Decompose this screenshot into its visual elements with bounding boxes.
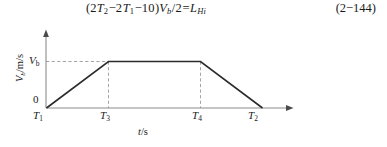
x-tick-label-t4: T4 — [192, 110, 202, 123]
x-tick-label-t1: T1 — [33, 110, 43, 123]
y-axis-title: Vb/m/s — [15, 40, 27, 96]
x-axis-arrowhead — [286, 105, 294, 111]
x-tick-label-t3: T3 — [100, 110, 110, 123]
x-axis-title: t/s — [138, 127, 148, 138]
y-tick-label-zero: 0 — [33, 94, 39, 105]
equation-expression: (2T2−2T1−10)Vb/2=LHi — [86, 1, 206, 16]
y-axis-arrowhead — [43, 30, 49, 38]
equation-row: (2T2−2T1−10)Vb/2=LHi (2−144) — [0, 0, 387, 22]
equation-number: (2−144) — [336, 1, 376, 16]
velocity-time-chart: Vb/m/s Vb 0 T1 T3 T4 T2 t/s — [0, 22, 387, 147]
y-tick-label-vb: Vb — [29, 55, 40, 68]
x-tick-label-t2: T2 — [248, 110, 258, 123]
velocity-profile-curve — [47, 62, 263, 109]
chart-plot-area — [0, 22, 387, 147]
